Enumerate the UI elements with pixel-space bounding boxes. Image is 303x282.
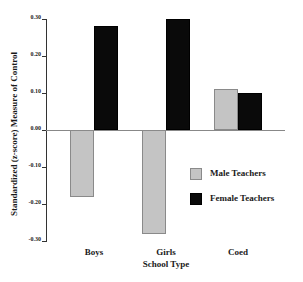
y-tick-mark: [42, 19, 46, 20]
y-tick-mark: [42, 56, 46, 57]
y-tick-label: -0.10: [13, 162, 41, 168]
y-tick-label: 0.10: [13, 88, 41, 94]
y-tick-label: 0.30: [13, 14, 41, 20]
y-tick-label: -0.30: [13, 236, 41, 242]
bar-girls-female: [166, 19, 190, 130]
x-category-label: Boys: [64, 247, 124, 257]
x-axis-title: School Type: [116, 259, 216, 269]
bar-chart: Standardized (z-score) Measure of Contro…: [0, 0, 303, 282]
legend-label-male: Male Teachers: [210, 168, 266, 178]
x-category-label: Coed: [208, 247, 268, 257]
y-axis-title: Standardized (z-score) Measure of Contro…: [9, 44, 19, 224]
legend-swatch-male: [190, 168, 202, 180]
y-tick-mark: [42, 167, 46, 168]
legend-swatch-female: [190, 193, 202, 205]
bar-boys-male: [70, 130, 94, 197]
y-tick-label: 0.00: [13, 125, 41, 131]
y-tick-label: 0.20: [13, 51, 41, 57]
bar-coed-female: [238, 93, 262, 130]
y-tick-mark: [42, 204, 46, 205]
x-category-label: Girls: [136, 247, 196, 257]
y-tick-label: -0.20: [13, 199, 41, 205]
bar-coed-male: [214, 89, 238, 130]
bar-boys-female: [94, 26, 118, 130]
y-tick-mark: [42, 241, 46, 242]
y-tick-mark: [42, 93, 46, 94]
legend-label-female: Female Teachers: [210, 193, 274, 203]
bar-girls-male: [142, 130, 166, 234]
